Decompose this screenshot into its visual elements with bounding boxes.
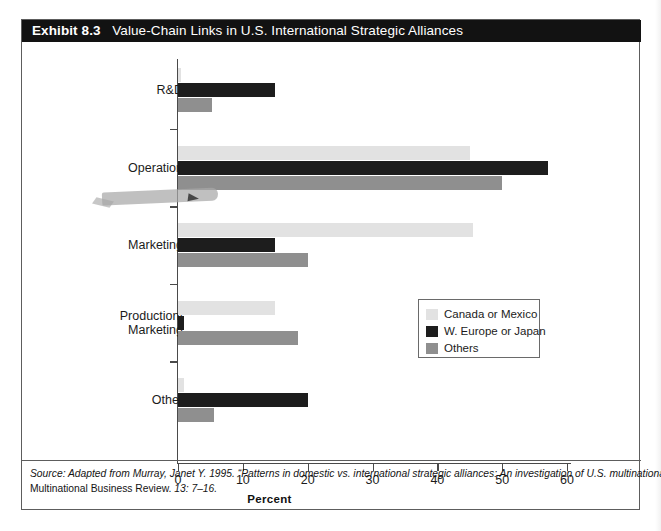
- exhibit-number: Exhibit 8.3: [32, 23, 101, 38]
- y-axis-tick: [170, 284, 178, 285]
- y-axis-category-label: Marketing: [128, 238, 183, 252]
- bar-chart: R&DOperationMarketingProduction/Marketin…: [22, 42, 641, 462]
- x-axis-line: [177, 463, 571, 464]
- chart-bar: [178, 301, 275, 315]
- legend-item: Canada or Mexico: [426, 306, 539, 322]
- y-axis-tick: [170, 361, 178, 362]
- legend-label: Canada or Mexico: [444, 308, 537, 320]
- legend-swatch-w-europe-or-japan: [426, 326, 438, 337]
- scan-edge-artifact: [655, 0, 661, 531]
- chart-bar: [178, 393, 308, 407]
- source-line-1: Source: Adapted from Murray, Janet Y. 19…: [30, 467, 634, 482]
- chart-bar: [178, 253, 308, 267]
- chart-bar: [178, 83, 275, 97]
- chart-bar: [178, 408, 214, 422]
- chart-bar: [178, 146, 470, 160]
- chart-category-group: Operation: [22, 146, 641, 190]
- legend-swatch-others: [426, 343, 438, 354]
- page-title: Exhibit 8.3 Value-Chain Links in U.S. In…: [32, 23, 463, 38]
- legend-label: W. Europe or Japan: [444, 325, 546, 337]
- source-note: Source: Adapted from Murray, Janet Y. 19…: [30, 467, 634, 496]
- legend-label: Others: [444, 342, 479, 354]
- source-journal: Multinational Business Review.: [30, 483, 174, 494]
- chart-bar: [178, 331, 298, 345]
- exhibit-title-label: Value-Chain Links in U.S. International …: [112, 23, 463, 38]
- chart-bar: [178, 238, 275, 252]
- legend-item: W. Europe or Japan: [426, 323, 539, 339]
- highlighter-mark-operation: [102, 187, 218, 205]
- chart-legend: Canada or Mexico W. Europe or Japan Othe…: [418, 299, 540, 358]
- legend-swatch-canada-or-mexico: [426, 309, 438, 320]
- y-axis-tick: [170, 129, 178, 130]
- chart-bar: [178, 98, 212, 112]
- chart-bar: [178, 176, 502, 190]
- source-volume-pages: 13: 7–16.: [174, 483, 217, 494]
- chart-bar: [178, 68, 181, 82]
- chart-category-group: Other: [22, 378, 641, 422]
- y-axis-category-label: Operation: [128, 161, 183, 175]
- y-axis-tick: [170, 206, 178, 207]
- highlighter-arrow-icon: [187, 193, 199, 202]
- exhibit-title-bar: Exhibit 8.3 Value-Chain Links in U.S. In…: [22, 20, 641, 42]
- highlighter-tail-mark: [92, 197, 114, 207]
- exhibit-card: Exhibit 8.3 Value-Chain Links in U.S. In…: [21, 19, 640, 510]
- chart-category-group: R&D: [22, 68, 641, 112]
- chart-bar: [178, 316, 184, 330]
- footnote-divider: [22, 460, 641, 461]
- chart-category-group: Marketing: [22, 223, 641, 267]
- chart-bar: [178, 223, 473, 237]
- chart-bar: [178, 161, 548, 175]
- chart-category-group: Production/Marketing: [22, 301, 641, 345]
- legend-item: Others: [426, 340, 539, 356]
- y-axis-category-label: Production/Marketing: [120, 309, 183, 337]
- source-line-2: Multinational Business Review. 13: 7–16.: [30, 482, 634, 497]
- chart-bar: [178, 378, 184, 392]
